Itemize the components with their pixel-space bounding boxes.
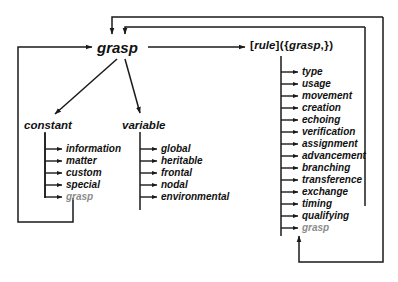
leaf-constant-grasp: grasp (66, 192, 93, 202)
wire-outer-top-to-grasp (112, 17, 383, 34)
wire-inner-top-to-grasp (125, 27, 365, 34)
leaf-rule-movement: movement (302, 91, 352, 101)
wire-constant-ticks (45, 149, 62, 197)
rule-argument: grasp (289, 39, 320, 51)
wire-rule-ticks (281, 72, 298, 228)
wire-variable-ticks (140, 149, 157, 197)
node-constant: constant (24, 120, 72, 132)
rule-close-paren: ) (329, 39, 333, 51)
node-grasp: grasp (97, 40, 138, 55)
leaf-rule-qualifying: qualifying (302, 211, 349, 221)
leaf-rule-creation: creation (302, 103, 341, 113)
wire-grasp-to-constant (55, 59, 117, 114)
leaf-constant-matter: matter (66, 156, 97, 166)
node-rule-expression: [rule]({grasp,}) (250, 40, 333, 52)
leaf-rule-usage: usage (302, 79, 331, 89)
leaf-rule-verification: verification (302, 127, 355, 137)
leaf-rule-branching: branching (302, 163, 350, 173)
leaf-variable-heritable: heritable (161, 156, 203, 166)
rule-keyword: rule (254, 39, 275, 51)
leaf-rule-type: type (302, 67, 323, 77)
leaf-constant-custom: custom (66, 168, 102, 178)
leaf-variable-global: global (161, 144, 190, 154)
leaf-rule-grasp: grasp (302, 223, 329, 233)
leaf-constant-special: special (66, 180, 100, 190)
leaf-variable-frontal: frontal (161, 168, 192, 178)
leaf-rule-exchange: exchange (302, 187, 348, 197)
leaf-rule-advancement: advancement (302, 151, 366, 161)
leaf-constant-information: information (66, 144, 121, 154)
leaf-rule-assignment: assignment (302, 139, 358, 149)
leaf-variable-nodal: nodal (161, 180, 188, 190)
leaf-variable-environmental: environmental (161, 192, 229, 202)
wire-grasp-to-variable (125, 59, 140, 113)
grasp-grammar-diagram: grasp constant variable [rule]({grasp,})… (0, 0, 398, 282)
node-variable: variable (122, 120, 165, 132)
leaf-rule-transference: transference (302, 175, 362, 185)
leaf-rule-timing: timing (302, 199, 332, 209)
leaf-rule-echoing: echoing (302, 115, 340, 125)
